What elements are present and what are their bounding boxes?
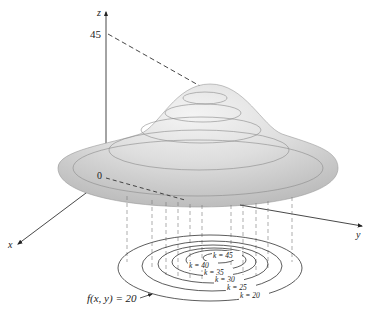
z-axis-label: z <box>96 7 101 18</box>
annotation-arrow <box>140 294 152 298</box>
surface-level-curves-figure: z 45 0 x y k = 45 k = 40 k = 35 k = 30 k… <box>0 0 374 317</box>
surface <box>58 84 338 207</box>
label-k45: k = 45 <box>213 251 233 260</box>
x-axis-label: x <box>7 239 13 250</box>
y-axis-visible <box>240 205 362 226</box>
z-tick-45: 45 <box>90 28 102 40</box>
origin-label: 0 <box>97 170 102 181</box>
function-annotation: f(x, y) = 20 <box>87 292 137 305</box>
y-axis-label: y <box>355 229 361 240</box>
diagram-canvas: z 45 0 x y k = 45 k = 40 k = 35 k = 30 k… <box>0 0 374 317</box>
label-k20: k = 20 <box>240 291 260 300</box>
z45-dashed-guide <box>108 34 200 86</box>
